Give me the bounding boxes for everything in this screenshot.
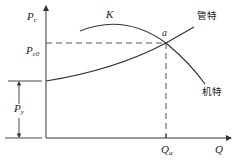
qa-label: Qa — [161, 144, 172, 157]
pc0-label: Pc0 — [26, 45, 39, 58]
pump-curve-label: 机特 — [202, 87, 222, 97]
pipe-characteristic-curve — [46, 27, 194, 81]
k-label: K — [106, 9, 113, 20]
pipe-curve-label: 管特 — [197, 11, 217, 21]
x-axis-label: Q — [215, 144, 223, 155]
operating-point-label: a — [162, 28, 167, 38]
y-axis-label: Pc — [27, 11, 37, 24]
py-label: Py — [14, 103, 24, 116]
diagram-canvas — [0, 0, 236, 160]
